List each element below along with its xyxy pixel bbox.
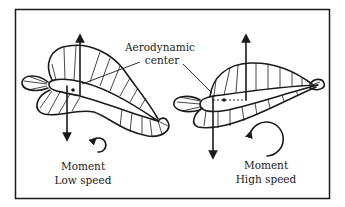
aerodynamic-center-label-line2: center: [145, 54, 180, 66]
low-speed-label: Low speed: [55, 174, 112, 186]
low-moment-label: Moment: [61, 160, 106, 172]
high-moment-label: Moment: [244, 159, 289, 171]
high-speed-label: High speed: [236, 173, 297, 185]
low-aerodynamic-center-dot: [71, 88, 75, 92]
airfoil-pressure-distribution-diagram: Moment Low speed Aerodynamic center: [0, 0, 345, 207]
aerodynamic-center-label-line1: Aerodynamic: [124, 41, 195, 53]
high-aerodynamic-center-dot: [222, 98, 226, 102]
